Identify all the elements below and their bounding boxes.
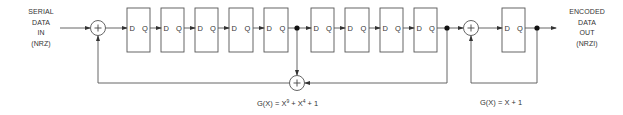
svg-text:Q: Q: [517, 24, 523, 33]
junction-dot: [534, 25, 539, 30]
svg-text:Q: Q: [245, 24, 251, 33]
junction-dot: [444, 25, 449, 30]
eq-part: G(X) = X: [257, 99, 286, 108]
svg-text:D: D: [505, 24, 511, 33]
svg-text:D: D: [267, 24, 273, 33]
svg-text:D: D: [130, 24, 136, 33]
svg-text:D: D: [232, 24, 238, 33]
svg-text:Q: Q: [361, 24, 367, 33]
svg-text:Q: Q: [210, 24, 216, 33]
eq-part: + 1: [306, 99, 319, 108]
svg-text:Q: Q: [142, 24, 148, 33]
svg-text:D: D: [383, 24, 389, 33]
encoder-polynomial: G(X) = X + 1: [480, 98, 522, 107]
junction-dot: [294, 25, 299, 30]
svg-text:Q: Q: [395, 24, 401, 33]
svg-text:D: D: [164, 24, 170, 33]
svg-text:D: D: [417, 24, 423, 33]
svg-text:Q: Q: [326, 24, 332, 33]
svg-text:Q: Q: [280, 24, 286, 33]
svg-text:Q: Q: [429, 24, 435, 33]
svg-text:D: D: [348, 24, 354, 33]
svg-text:Q: Q: [176, 24, 182, 33]
nrzi-encoder-diagram: SERIAL DATA IN (NRZ) ENCODED DATA OUT (N…: [0, 0, 623, 115]
eq-part: + X: [289, 99, 303, 108]
svg-text:D: D: [314, 24, 320, 33]
svg-text:D: D: [198, 24, 204, 33]
scrambler-polynomial: G(X) = X9 + X4 + 1: [257, 98, 318, 108]
